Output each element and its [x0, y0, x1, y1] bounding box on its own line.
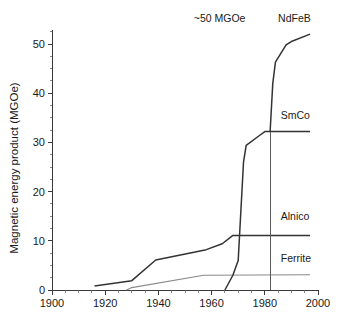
x-tick-label: 1940 — [146, 297, 170, 309]
series-label-ferrite: Ferrite — [281, 252, 311, 264]
y-axis: 01020304050 — [33, 30, 52, 296]
x-tick-label: 1900 — [40, 297, 64, 309]
x-tick-label: 1980 — [253, 297, 277, 309]
chart-annotations: ~50 MGOe — [194, 12, 246, 24]
y-tick-label: 0 — [39, 284, 45, 296]
x-axis: 190019201940196019802000 — [40, 290, 330, 309]
x-tick-label: 1920 — [93, 297, 117, 309]
series-label-alnico: Alnico — [281, 210, 310, 222]
y-tick-label: 40 — [33, 87, 45, 99]
series-line-ferrite — [126, 275, 310, 290]
chart-canvas: 01020304050 190019201940196019802000 Aln… — [0, 0, 340, 324]
series-label-smco: SmCo — [281, 109, 310, 121]
y-axis-title: Magnetic energy product (MGOe) — [8, 82, 20, 253]
y-tick-label: 20 — [33, 186, 45, 198]
x-tick-label: 2000 — [306, 297, 330, 309]
series-label-ndfeb: NdFeB — [278, 12, 311, 24]
series-lines — [95, 34, 310, 290]
y-tick-label: 50 — [33, 38, 45, 50]
y-axis-title-text: Magnetic energy product (MGOe) — [8, 82, 20, 253]
magnetic-energy-product-chart: 01020304050 190019201940196019802000 Aln… — [0, 0, 340, 324]
y-tick-label: 30 — [33, 136, 45, 148]
x-tick-label: 1960 — [199, 297, 223, 309]
series-line-alnico — [95, 235, 310, 286]
y-tick-label: 10 — [33, 235, 45, 247]
annotation-50-mgoe: ~50 MGOe — [194, 12, 246, 24]
